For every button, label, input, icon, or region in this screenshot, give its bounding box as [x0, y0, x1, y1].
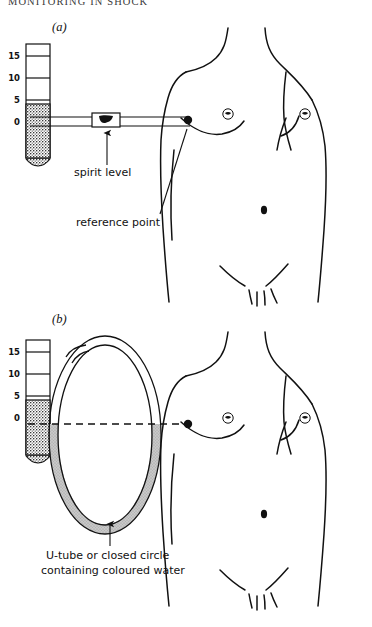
- navel-a: [261, 206, 267, 214]
- nipple-right-b: [300, 413, 310, 423]
- manometer-column-b: [26, 340, 50, 463]
- callout-reference-point: reference point: [76, 216, 160, 229]
- manometer-column-a: [26, 44, 50, 166]
- nipple-right-a: [300, 109, 310, 119]
- caption-u-tube-line2: containing coloured water: [41, 564, 185, 577]
- scale-label-a-15: 15: [6, 51, 20, 61]
- panel-b-label: (b): [52, 312, 67, 327]
- u-tube-loop: [49, 336, 161, 534]
- callout-spirit-level: spirit level: [74, 166, 131, 179]
- scale-label-a-5: 5: [6, 95, 20, 105]
- scale-label-a-0: 0: [6, 117, 20, 127]
- figure-root: MONITORING IN SHOCK (a): [0, 0, 372, 627]
- navel-b: [261, 510, 267, 518]
- scale-label-b-5: 5: [6, 391, 20, 401]
- torso-panel-a: [161, 28, 326, 306]
- scale-label-b-0: 0: [6, 413, 20, 423]
- torso-panel-b: [161, 332, 326, 610]
- scale-label-b-10: 10: [6, 369, 20, 379]
- scale-label-a-10: 10: [6, 73, 20, 83]
- reference-dot-b: [184, 420, 192, 428]
- spirit-level-icon: [92, 113, 120, 127]
- nipple-left-b: [223, 413, 233, 423]
- scale-label-b-15: 15: [6, 347, 20, 357]
- nipple-left-a: [223, 109, 233, 119]
- reference-dot-a: [184, 116, 192, 124]
- caption-u-tube-line1: U-tube or closed circle: [46, 549, 169, 562]
